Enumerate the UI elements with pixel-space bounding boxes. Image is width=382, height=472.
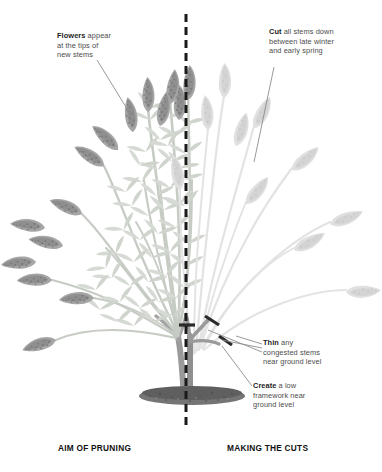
- soil-mound: [139, 386, 245, 405]
- label-thin-bold: Thin: [263, 338, 279, 347]
- left-bush-illustration: [0, 65, 206, 400]
- label-flowers-bold: Flowers: [57, 31, 85, 40]
- caption-aim-of-pruning: AIM OF PRUNING: [58, 443, 131, 453]
- pruning-diagram: Flowers appear at the tips of new stems …: [0, 0, 382, 472]
- label-thin: Thin any congested stems near ground lev…: [263, 338, 363, 367]
- right-ghost-flower-spikes: [166, 63, 382, 301]
- label-create-bold: Create: [253, 381, 276, 390]
- caption-making-the-cuts: MAKING THE CUTS: [227, 443, 308, 453]
- label-flowers: Flowers appear at the tips of new stems: [57, 31, 137, 60]
- label-cut-bold: Cut: [269, 27, 282, 36]
- leader-create: [222, 346, 252, 386]
- leader-flowers: [97, 60, 129, 112]
- label-create: Create a low framework near ground level: [253, 381, 358, 410]
- label-cut: Cut all stems down between late winter a…: [269, 27, 364, 56]
